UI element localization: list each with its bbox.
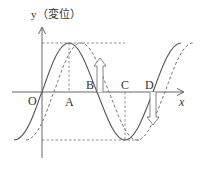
point-D-label: D <box>145 79 154 91</box>
point-A-label: A <box>65 96 74 108</box>
arrow-up-icon <box>94 58 106 92</box>
y-axis-label: y（変位） <box>31 9 81 20</box>
point-C-label: C <box>121 79 129 91</box>
arrow-down-icon <box>147 92 159 125</box>
point-O-label: O <box>28 95 37 107</box>
wave-diagram <box>0 0 203 170</box>
x-axis-label: x <box>179 96 184 108</box>
dashed-wave <box>26 43 193 140</box>
point-B-label: B <box>86 79 94 91</box>
